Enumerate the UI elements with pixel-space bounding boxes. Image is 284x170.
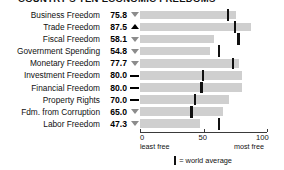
- freedom-row: Monetary Freedom77.7: [0, 57, 284, 69]
- freedom-label: Monetary Freedom: [30, 57, 100, 69]
- freedom-label: Business Freedom: [31, 9, 100, 21]
- freedom-row: Investment Freedom80.0: [0, 69, 284, 81]
- freedom-label: Government Spending: [17, 45, 100, 57]
- legend-label: = world average: [179, 156, 232, 165]
- world-average-tick: [227, 9, 229, 21]
- axis-tick-label: 50: [199, 133, 207, 142]
- freedom-score: 80.0: [103, 82, 127, 94]
- freedom-score: 47.3: [103, 118, 127, 130]
- score-bar: [140, 71, 242, 80]
- axis-least-free-label: least free: [140, 142, 170, 151]
- world-average-tick: [190, 106, 192, 118]
- world-average-tick: [232, 58, 234, 70]
- freedom-score: 87.5: [103, 21, 127, 33]
- freedom-score: 54.8: [103, 45, 127, 57]
- bar-track: [140, 33, 267, 45]
- score-bar: [140, 119, 200, 128]
- freedom-score: 58.1: [103, 33, 127, 45]
- world-average-tick: [218, 118, 220, 130]
- score-bar: [140, 47, 210, 56]
- freedom-score: 80.0: [103, 69, 127, 81]
- freedom-row: Labor Freedom47.3: [0, 118, 284, 130]
- bar-track: [140, 106, 267, 118]
- bar-track: [140, 45, 267, 57]
- freedom-label: Fiscal Freedom: [43, 33, 100, 45]
- economic-freedoms-chart: COUNTRY'S TEN ECONOMIC FREEDOMS Business…: [0, 0, 284, 170]
- trend-down-icon: [130, 33, 140, 45]
- freedom-label: Property Rights: [43, 94, 100, 106]
- freedom-score: 77.7: [103, 57, 127, 69]
- trend-flat-icon: [130, 82, 140, 94]
- trend-flat-icon: [130, 69, 140, 81]
- bar-track: [140, 94, 267, 106]
- score-bar: [140, 59, 239, 68]
- freedom-row: Trade Freedom87.5: [0, 21, 284, 33]
- trend-down-icon: [130, 9, 140, 21]
- freedom-score: 65.0: [103, 106, 127, 118]
- trend-down-icon: [130, 45, 140, 57]
- axis-tick: [267, 129, 268, 133]
- trend-down-icon: [130, 106, 140, 118]
- freedom-row: Government Spending54.8: [0, 45, 284, 57]
- bar-track: [140, 21, 267, 33]
- axis-tick: [204, 129, 205, 133]
- bar-track: [140, 82, 267, 94]
- freedom-label: Financial Freedom: [31, 82, 100, 94]
- freedom-label: Fdm. from Corruption: [21, 106, 100, 118]
- world-average-tick: [237, 33, 239, 45]
- world-average-tick: [234, 21, 236, 33]
- bar-track: [140, 9, 267, 21]
- world-average-tick: [218, 45, 220, 57]
- score-bar: [140, 83, 242, 92]
- freedom-score: 70.0: [103, 94, 127, 106]
- freedom-label: Trade Freedom: [43, 21, 100, 33]
- score-bar: [140, 107, 223, 116]
- freedom-label: Investment Freedom: [24, 69, 100, 81]
- freedom-row: Fdm. from Corruption65.0: [0, 106, 284, 118]
- score-bar: [140, 95, 229, 104]
- page-title: COUNTRY'S TEN ECONOMIC FREEDOMS: [18, 0, 216, 4]
- axis-tick: [140, 129, 141, 133]
- trend-flat-icon: [130, 94, 140, 106]
- bar-track: [140, 57, 267, 69]
- world-average-tick: [202, 70, 204, 82]
- trend-down-icon: [130, 57, 140, 69]
- legend: = world average: [174, 150, 232, 161]
- freedom-row: Fiscal Freedom58.1: [0, 33, 284, 45]
- world-average-marker-icon: [174, 156, 176, 165]
- world-average-tick: [200, 82, 202, 94]
- axis-most-free-label: most free: [234, 142, 264, 151]
- freedom-label: Labor Freedom: [43, 118, 100, 130]
- trend-down-icon: [130, 118, 140, 130]
- world-average-tick: [194, 94, 196, 106]
- freedom-rows: Business Freedom75.8Trade Freedom87.5Fis…: [0, 9, 284, 130]
- freedom-score: 75.8: [103, 9, 127, 21]
- score-bar: [140, 35, 214, 44]
- score-bar: [140, 11, 236, 20]
- bar-track: [140, 69, 267, 81]
- trend-up-icon: [130, 21, 140, 33]
- freedom-row: Property Rights70.0: [0, 94, 284, 106]
- freedom-row: Financial Freedom80.0: [0, 82, 284, 94]
- freedom-row: Business Freedom75.8: [0, 9, 284, 21]
